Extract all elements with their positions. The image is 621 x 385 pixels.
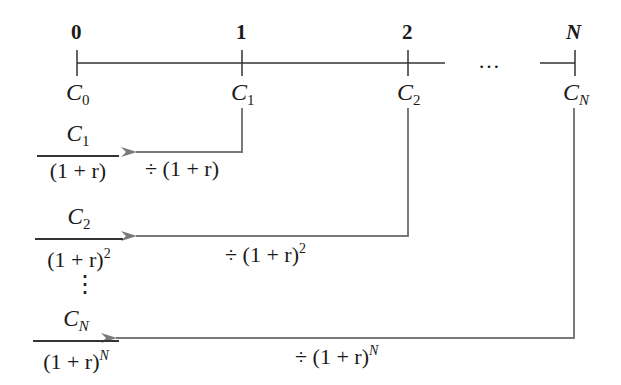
cash-flow-2: C2 [397,80,421,108]
period-label-2: 2 [402,22,413,43]
period-label-0: 0 [71,22,82,43]
discounted-value-1: C1 (1 + r) [37,120,119,185]
operation-label-1: ÷ (1 + r) [145,158,219,180]
period-label-N: N [566,22,581,43]
discounted-value-2: C2 (1 + r)2 [35,203,123,274]
cash-flow-0: C0 [66,80,90,108]
cash-flow-1: C1 [231,80,255,108]
discounted-value-N: CN (1 + r)N [33,305,119,376]
vertical-ellipsis: ⋮ [73,272,97,296]
period-label-1: 1 [236,22,247,43]
cash-flow-N: CN [563,80,589,108]
discount-arrows [116,108,574,338]
timeline-axis [77,50,575,76]
operation-label-2: ÷ (1 + r)2 [225,242,306,266]
timeline-ellipsis: … [478,50,500,72]
operation-label-N: ÷ (1 + r)N [295,344,378,368]
